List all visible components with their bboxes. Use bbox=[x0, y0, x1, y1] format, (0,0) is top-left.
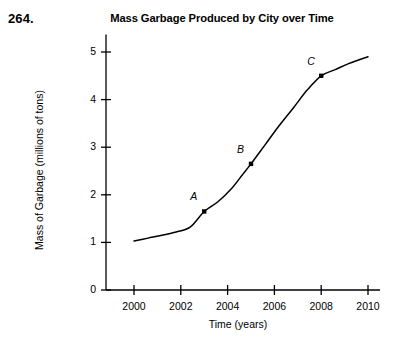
y-axis-title: Mass of Garbage (millions of tons) bbox=[33, 55, 45, 285]
axes bbox=[101, 34, 380, 295]
point-label-a: A bbox=[190, 190, 197, 202]
y-tick-label: 1 bbox=[76, 235, 96, 247]
x-tick-label: 2000 bbox=[114, 300, 154, 312]
x-tick-label: 2008 bbox=[301, 300, 341, 312]
x-tick-label: 2006 bbox=[254, 300, 294, 312]
chart-plot-area bbox=[0, 0, 412, 346]
point-label-c: C bbox=[307, 55, 315, 67]
y-tick-label: 3 bbox=[76, 140, 96, 152]
x-tick-label: 2004 bbox=[208, 300, 248, 312]
point-label-b: B bbox=[237, 143, 244, 155]
data-curve bbox=[134, 57, 368, 241]
x-tick-label: 2010 bbox=[348, 300, 388, 312]
x-tick-label: 2002 bbox=[161, 300, 201, 312]
y-tick-label: 2 bbox=[76, 188, 96, 200]
figure-container: 264. Mass Garbage Produced by City over … bbox=[0, 0, 412, 346]
data-point-markers bbox=[202, 74, 323, 214]
y-tick-label: 4 bbox=[76, 93, 96, 105]
x-axis-title: Time (years) bbox=[106, 318, 370, 330]
y-tick-label: 5 bbox=[76, 45, 96, 57]
y-tick-label: 0 bbox=[76, 283, 96, 295]
